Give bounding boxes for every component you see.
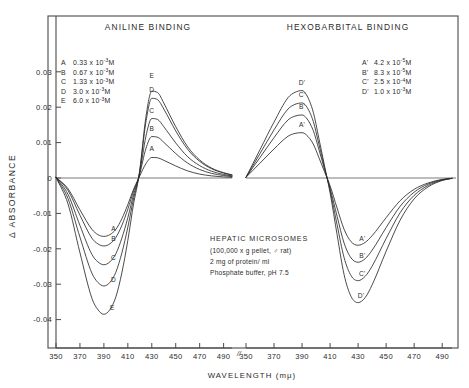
x-axis-tick-label: 490	[217, 352, 231, 361]
y-axis-tick-label: -0.01	[33, 209, 52, 218]
x-axis-tick-label: 430	[145, 352, 159, 361]
x-axis-tick-label: 470	[193, 352, 207, 361]
curve-label-peak-D: D	[149, 86, 154, 93]
legend-key-hexobarbital: A'	[362, 59, 368, 66]
legend-key-hexobarbital: D'	[362, 88, 369, 95]
curve-label-trough-A: A	[111, 225, 116, 232]
legend-key-aniline: B	[61, 69, 66, 76]
legend-value-hexobarbital: 2.5 x 10-4M	[374, 78, 411, 86]
curve-label-trough-Aprime: A'	[359, 235, 365, 242]
curve-label-trough-D: D	[111, 276, 116, 283]
y-axis-tick-label: -0.03	[33, 280, 52, 289]
legend-value-hexobarbital: 8.3 x 10-5M	[374, 68, 411, 76]
x-axis-tick-label: 410	[323, 352, 337, 361]
curve-label-trough-Dprime: D'	[358, 292, 364, 299]
panel-title-aniline: ANILINE BINDING	[105, 22, 191, 32]
curve-label-trough-C: C	[111, 254, 116, 261]
x-axis-tick-label: 370	[267, 352, 281, 361]
annotation-line: Phosphate buffer, pH 7.5	[210, 269, 289, 277]
curve-label-peak-Aprime: A'	[299, 121, 305, 128]
curve-label-peak-Dprime: D'	[299, 79, 305, 86]
curve-label-peak-E: E	[149, 72, 154, 79]
legend-value-aniline: 0.67 x 10-3M	[73, 68, 114, 76]
legend-value-aniline: 1.33 x 10-3M	[73, 78, 114, 86]
legend-key-aniline: A	[61, 59, 66, 66]
curve-label-peak-B: B	[149, 125, 154, 132]
legend-key-aniline: C	[61, 78, 66, 85]
curve-label-peak-C: C	[149, 107, 154, 114]
x-axis-tick-label: 430	[351, 352, 365, 361]
y-axis-tick-label: -0.04	[33, 315, 52, 324]
x-axis-tick-label: 350	[49, 352, 63, 361]
spectrum-curve-aniline-B	[56, 137, 232, 246]
y-axis-tick-label: -0.02	[33, 245, 52, 254]
spectra-plot-canvas: 0.030.020.010-0.01-0.02-0.03-0.04Δ ABSOR…	[0, 0, 469, 388]
x-axis-tick-label: 470	[407, 352, 421, 361]
x-axis-tick-label: 450	[169, 352, 183, 361]
y-axis-tick-label: 0.02	[36, 103, 52, 112]
y-axis-tick-label: 0	[47, 174, 52, 183]
x-axis-title: WAVELENGTH (mμ)	[208, 371, 297, 380]
spectrum-curve-aniline-D	[56, 98, 232, 286]
x-axis-tick-label: 370	[73, 352, 87, 361]
x-axis-tick-label: 490	[435, 352, 449, 361]
spectrum-curve-aniline-A	[56, 157, 232, 236]
x-axis-tick-label: 450	[379, 352, 393, 361]
legend-value-aniline: 6.0 x 10-3M	[73, 97, 110, 105]
legend-value-hexobarbital: 1.0 x 10-3M	[374, 87, 411, 95]
x-axis-tick-label: 390	[295, 352, 309, 361]
curve-label-peak-A: A	[149, 145, 154, 152]
curve-label-trough-B: B	[111, 235, 116, 242]
legend-value-aniline: 0.33 x 10-3M	[73, 58, 114, 66]
y-axis-tick-label: 0.03	[36, 68, 52, 77]
curve-label-peak-Cprime: C'	[299, 91, 305, 98]
legend-key-aniline: D	[61, 88, 66, 95]
curve-label-trough-Bprime: B'	[359, 252, 365, 259]
legend-key-hexobarbital: C'	[362, 78, 369, 85]
difference-spectra-figure: 0.030.020.010-0.01-0.02-0.03-0.04Δ ABSOR…	[0, 0, 469, 388]
legend-value-aniline: 3.0 x 10-3M	[73, 87, 110, 95]
panel-title-hexobarbital: HEXOBARBITAL BINDING	[287, 22, 410, 32]
spectrum-curve-aniline-E	[56, 91, 232, 314]
legend-key-hexobarbital: B'	[362, 69, 368, 76]
curve-label-trough-E: E	[110, 304, 115, 311]
x-axis-tick-label: 350	[239, 352, 253, 361]
annotation-line: (100,000 x g pellet, ♂ rat)	[210, 247, 291, 255]
annotation-line: 2 mg of protein/ ml	[210, 258, 270, 266]
curve-label-trough-Cprime: C'	[359, 270, 365, 277]
spectrum-curve-aniline-C	[56, 119, 232, 265]
annotation-heading: HEPATIC MICROSOMES	[210, 234, 308, 243]
legend-value-hexobarbital: 4.2 x 10-5M	[374, 58, 411, 66]
y-axis-title: Δ ABSORBANCE	[7, 154, 17, 238]
x-axis-tick-label: 410	[121, 352, 135, 361]
spectrum-curve-hexobarbital-Aprime	[246, 133, 452, 246]
y-axis-tick-label: 0.01	[36, 138, 52, 147]
legend-key-aniline: E	[61, 97, 66, 104]
x-axis-tick-label: 390	[97, 352, 111, 361]
curve-label-peak-Bprime: B'	[299, 103, 305, 110]
